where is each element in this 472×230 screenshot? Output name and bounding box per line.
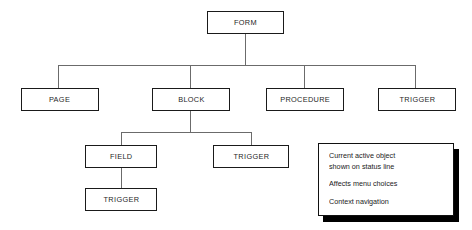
note-line-1b: shown on status line [329, 162, 438, 173]
note-line-2a: Affects menu choices [329, 179, 438, 190]
node-trigger-block-level[interactable]: TRIGGER [213, 145, 289, 168]
note-paragraph-1: Current active object shown on status li… [329, 151, 444, 172]
connector-level3-bus [121, 132, 251, 133]
node-block[interactable]: BLOCK [152, 88, 230, 111]
connector-drop-page [58, 65, 59, 88]
note-line-1a: Current active object [329, 151, 438, 162]
note-line-3a: Context navigation [329, 197, 438, 208]
note-paragraph-2: Affects menu choices [329, 179, 444, 190]
connector-level2-bus [58, 65, 415, 66]
connector-field-to-trigger3 [121, 168, 122, 188]
connector-block-stem [190, 111, 191, 132]
node-label-procedure: PROCEDURE [280, 96, 330, 104]
node-page[interactable]: PAGE [21, 88, 99, 111]
node-form[interactable]: FORM [207, 11, 284, 34]
connector-drop-trigger1 [415, 65, 416, 88]
connector-drop-block [190, 65, 191, 88]
node-label-form: FORM [234, 19, 257, 27]
node-procedure[interactable]: PROCEDURE [266, 88, 344, 111]
note-paragraph-3: Context navigation [329, 197, 444, 208]
connector-drop-field [121, 132, 122, 145]
node-label-trigger-block-level: TRIGGER [233, 153, 269, 161]
connector-drop-trigger2 [251, 132, 252, 145]
note-callout: Current active object shown on status li… [318, 143, 454, 216]
node-label-field: FIELD [110, 153, 132, 161]
node-label-block: BLOCK [178, 96, 205, 104]
form-hierarchy-diagram: FORM PAGE BLOCK PROCEDURE TRIGGER FIELD … [0, 0, 472, 230]
note-box: Current active object shown on status li… [318, 143, 454, 216]
node-label-page: PAGE [49, 96, 70, 104]
node-field[interactable]: FIELD [85, 145, 157, 168]
node-trigger-field-level[interactable]: TRIGGER [85, 188, 157, 211]
connector-drop-procedure [304, 65, 305, 88]
node-trigger-form-level[interactable]: TRIGGER [378, 88, 456, 111]
connector-form-stem [245, 34, 246, 65]
node-label-trigger-form-level: TRIGGER [399, 96, 435, 104]
node-label-trigger-field-level: TRIGGER [103, 196, 139, 204]
